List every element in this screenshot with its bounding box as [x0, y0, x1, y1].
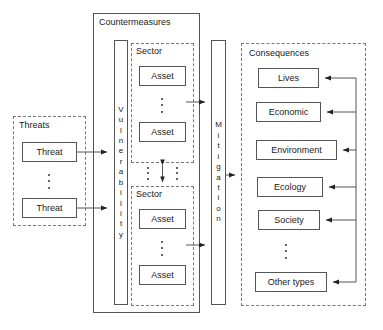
- sector-bottom-ellipsis: [160, 239, 164, 257]
- consequence-node-environment[interactable]: Environment: [256, 140, 337, 160]
- consequence-node-lives[interactable]: Lives: [258, 68, 319, 88]
- sector-top-asset-2[interactable]: Asset: [139, 122, 186, 142]
- sector-gap-ellipsis-left: [146, 165, 150, 181]
- group-sector-bottom-label: Sector: [136, 189, 162, 200]
- sector-bottom-asset-1[interactable]: Asset: [139, 209, 186, 229]
- mitigation-letter-9: n: [216, 214, 220, 224]
- sector-top-ellipsis: [160, 96, 164, 114]
- sector-gap-ellipsis-right: [175, 165, 179, 181]
- vulnerability-letter-8: i: [120, 188, 122, 198]
- sector-bottom-asset-2[interactable]: Asset: [139, 265, 186, 285]
- mitigation-letter-1: i: [218, 131, 220, 141]
- mitigation-letter-0: M: [215, 120, 222, 130]
- vulnerability-bar[interactable]: V u l n e r a b i l i t y: [114, 40, 128, 305]
- vulnerability-letter-3: n: [119, 136, 123, 146]
- sector-top-asset-1[interactable]: Asset: [139, 66, 186, 86]
- vulnerability-letter-10: i: [120, 209, 122, 219]
- consequence-node-other-types[interactable]: Other types: [255, 272, 327, 292]
- group-sector-top-label: Sector: [136, 46, 162, 57]
- vulnerability-letter-12: y: [119, 230, 123, 240]
- threat-node-1[interactable]: Threat: [22, 142, 77, 162]
- group-threats-label: Threats: [19, 120, 50, 131]
- group-countermeasures-label: Countermeasures: [99, 17, 171, 28]
- vulnerability-letter-1: u: [119, 115, 123, 125]
- vulnerability-letter-2: l: [120, 126, 122, 136]
- vulnerability-letter-5: r: [120, 157, 123, 167]
- mitigation-letter-4: g: [216, 162, 220, 172]
- group-consequences-label: Consequences: [249, 48, 309, 59]
- vulnerability-letter-4: e: [119, 146, 123, 156]
- vulnerability-letter-11: t: [120, 219, 122, 229]
- threats-ellipsis: [47, 172, 51, 190]
- vulnerability-letter-0: V: [118, 105, 123, 115]
- mitigation-letter-8: o: [216, 204, 220, 214]
- mitigation-bar[interactable]: M i t i g a t i o n: [211, 40, 226, 305]
- mitigation-letter-7: i: [218, 193, 220, 203]
- mitigation-letter-6: t: [217, 183, 219, 193]
- consequence-node-economic[interactable]: Economic: [256, 102, 321, 122]
- threat-node-2[interactable]: Threat: [22, 198, 77, 218]
- consequence-node-society[interactable]: Society: [258, 210, 320, 230]
- vulnerability-letter-6: a: [119, 167, 123, 177]
- diagram-canvas: Threats Threat Threat Countermeasures V …: [0, 0, 383, 330]
- mitigation-letter-2: t: [217, 141, 219, 151]
- consequence-node-ecology[interactable]: Ecology: [257, 177, 323, 197]
- vulnerability-letter-7: b: [119, 178, 123, 188]
- mitigation-letter-3: i: [218, 152, 220, 162]
- vulnerability-letter-9: l: [120, 199, 122, 209]
- consequences-ellipsis: [284, 242, 288, 260]
- mitigation-letter-5: a: [216, 173, 220, 183]
